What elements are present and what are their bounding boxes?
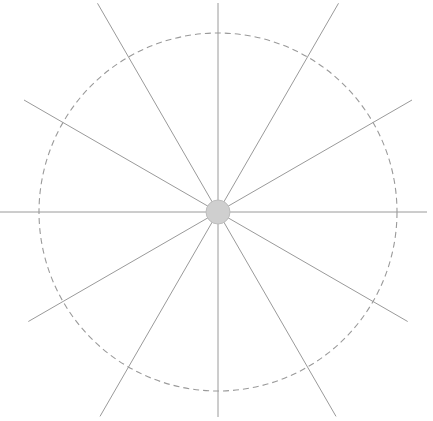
spoke-line-30 xyxy=(218,212,408,322)
radial-spoke-diagram xyxy=(0,0,433,421)
spoke-line-330 xyxy=(218,100,412,212)
spoke-line-150 xyxy=(28,212,218,322)
center-hub-circle xyxy=(206,200,230,224)
spoke-line-210 xyxy=(24,100,218,212)
spoke-line-240 xyxy=(98,3,219,212)
diagram-svg-canvas xyxy=(0,0,433,421)
spoke-line-120 xyxy=(100,212,218,416)
spoke-line-300 xyxy=(218,3,339,212)
spoke-line-60 xyxy=(218,212,336,416)
